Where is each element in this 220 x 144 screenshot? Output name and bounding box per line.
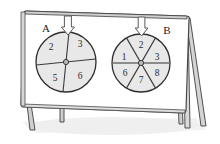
spinner-a-sector-2: 2 [49,42,54,52]
spinner-a-hub [63,59,68,64]
spinner-a-sector-5: 5 [53,73,58,83]
spinner-b-hub [138,60,143,65]
spinner-a-sector-6: 6 [78,71,83,81]
spinner-b-sector-6: 6 [123,68,128,78]
spinner-b-sector-1: 1 [122,52,127,62]
spinner-a-sector-3: 3 [78,39,83,49]
spinner-b-sector-3: 3 [155,52,160,62]
spinner-b-sector-8: 8 [155,68,160,78]
spinner-a-label: A [42,22,50,34]
spinner-b-sector-2: 2 [139,40,144,50]
spinner-b-sector-7: 7 [139,75,144,85]
spinner-easel-scene: 2 3 6 5 A 2 3 8 7 [0,0,220,144]
spinner-b-label: B [163,24,170,36]
